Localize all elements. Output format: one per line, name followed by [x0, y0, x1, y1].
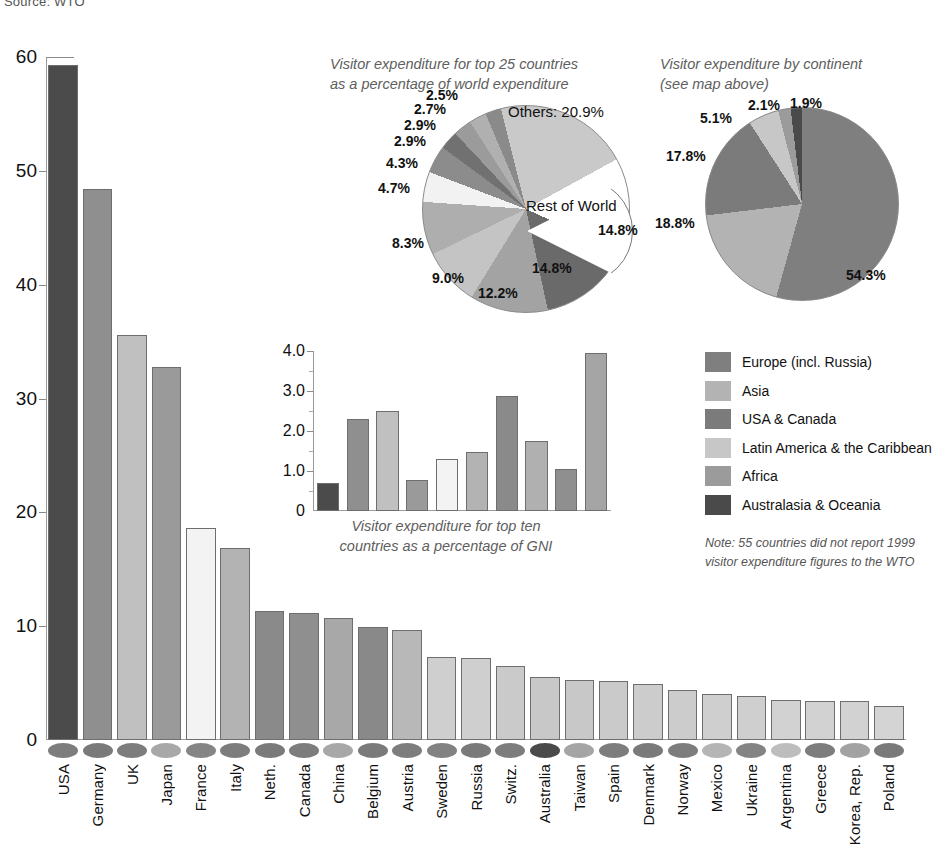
continent-color-dot — [599, 743, 629, 758]
legend-item-5: Australasia & Oceania — [705, 495, 913, 515]
bar — [324, 618, 354, 740]
bar-slot — [46, 57, 80, 740]
pie-slice-value-label: 4.3% — [386, 155, 418, 171]
x-axis-label-text: Australia — [536, 764, 553, 823]
x-axis-label-group: Russia — [459, 742, 493, 853]
x-axis-label-text: China — [330, 764, 347, 804]
legend-item-4: Africa — [705, 466, 913, 486]
x-axis-label-text: Russia — [468, 764, 485, 810]
gni-bar — [317, 483, 339, 511]
legend-note: Note: 55 countries did not report 1999 v… — [705, 534, 920, 572]
continent-share-pie-chart: Visitor expenditure by continent (see ma… — [660, 55, 913, 345]
pie-slice-value-label: 5.1% — [700, 110, 732, 126]
bar — [358, 627, 388, 740]
gni-bar-slot — [402, 351, 432, 511]
gni-inset-plot-area: 01.02.03.04.0 — [313, 351, 611, 511]
legend-color-swatch — [705, 438, 731, 458]
x-axis-label-text: Austria — [399, 764, 416, 811]
continent-color-dot — [805, 743, 835, 758]
continent-color-dot — [220, 743, 250, 758]
bar — [289, 613, 319, 740]
x-axis-label-group: Greece — [803, 742, 837, 853]
gni-bar-slot — [373, 351, 403, 511]
legend-color-swatch — [705, 381, 731, 401]
x-axis-label-text: Ukraine — [743, 764, 760, 816]
x-axis-label-group: USA — [46, 742, 80, 853]
continent-color-dot — [840, 743, 870, 758]
x-axis-label-text: Italy — [227, 764, 244, 792]
gni-bar — [525, 441, 547, 511]
continent-legend: Europe (incl. Russia)AsiaUSA & CanadaLat… — [705, 352, 913, 523]
pie-slice-value-label: 14.8% — [532, 260, 572, 276]
legend-color-swatch — [705, 466, 731, 486]
continent-color-dot — [495, 743, 525, 758]
bar — [633, 684, 663, 740]
x-axis-label-group: UK — [115, 742, 149, 853]
x-axis-label-group: Poland — [872, 742, 906, 853]
x-axis-label-text: Greece — [812, 764, 829, 814]
gni-bar-slot — [343, 351, 373, 511]
legend-item-0: Europe (incl. Russia) — [705, 352, 913, 372]
x-axis-label-group: France — [184, 742, 218, 853]
legend-color-swatch — [705, 495, 731, 515]
x-axis-label-group: Germany — [80, 742, 114, 853]
gni-bar-slot — [313, 351, 343, 511]
rest-of-world-value-label: 14.8% — [598, 222, 638, 238]
y-axis-tick-mark — [39, 285, 46, 286]
continent-color-dot — [358, 743, 388, 758]
gni-inset-bar-chart: 01.02.03.04.0 Visitor expenditure for to… — [266, 345, 626, 560]
bar — [186, 528, 216, 740]
bar — [427, 657, 457, 740]
x-axis-label-group: Argentina — [769, 742, 803, 853]
top25-share-pie-chart: Visitor expenditure for top 25 countries… — [330, 55, 650, 345]
x-axis-label-text: Sweden — [433, 764, 450, 819]
rest-of-world-label: Rest of World — [526, 197, 617, 214]
x-axis-label-text: Mexico — [708, 764, 725, 812]
bar — [255, 611, 285, 740]
x-axis-label-group: Taiwan — [562, 742, 596, 853]
x-axis-label-group: Mexico — [700, 742, 734, 853]
pie-slice-value-label: 2.5% — [426, 87, 458, 103]
pie-slice-value-label: 2.9% — [404, 117, 436, 133]
x-axis-label-group: Italy — [218, 742, 252, 853]
continent-pie-title: Visitor expenditure by continent (see ma… — [660, 55, 913, 94]
legend-color-swatch — [705, 352, 731, 372]
gni-bar-slot — [492, 351, 522, 511]
bar-slot — [115, 57, 149, 740]
bar — [840, 701, 870, 740]
bar-slot — [80, 57, 114, 740]
x-axis-label-text: Poland — [880, 764, 897, 811]
x-axis-label-text: Norway — [674, 764, 691, 815]
continent-color-dot — [151, 743, 181, 758]
continent-color-dot — [771, 743, 801, 758]
continent-color-dot — [702, 743, 732, 758]
x-axis-label-text: UK — [124, 764, 141, 785]
bar — [117, 335, 147, 740]
x-axis-label-text: Neth. — [261, 764, 278, 800]
pie-slice-value-label: 17.8% — [666, 148, 706, 164]
continent-color-dot — [255, 743, 285, 758]
legend-item-1: Asia — [705, 381, 913, 401]
bar — [461, 658, 491, 740]
bar — [48, 65, 78, 740]
pie-slice-value-label: 12.2% — [478, 285, 518, 301]
gni-bar — [585, 353, 607, 511]
legend-item-label: Latin America & the Caribbean — [742, 440, 932, 456]
bar — [737, 696, 767, 740]
bar — [565, 680, 595, 740]
x-axis-label-group: Australia — [528, 742, 562, 853]
gni-inset-caption: Visitor expenditure for top ten countrie… — [266, 517, 626, 556]
continent-color-dot — [83, 743, 113, 758]
x-axis-label-group: Ukraine — [734, 742, 768, 853]
gni-bar-slot — [462, 351, 492, 511]
gni-bar — [496, 396, 518, 511]
continent-color-dot — [564, 743, 594, 758]
gni-bar — [555, 469, 577, 511]
legend-item-3: Latin America & the Caribbean — [705, 438, 913, 458]
gni-bar — [466, 452, 488, 511]
bar — [530, 677, 560, 740]
x-axis-label-text: Korea, Rep. — [846, 764, 863, 845]
x-axis-label-group: Denmark — [631, 742, 665, 853]
y-axis-tick-label: 60 — [16, 46, 46, 68]
continent-color-dot — [186, 743, 216, 758]
